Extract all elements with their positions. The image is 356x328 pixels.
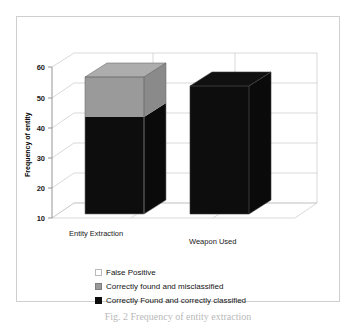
x-category-label-weapon-used: Weapon Used	[189, 237, 236, 246]
figure-caption: Fig. 2 Frequency of entity extraction	[0, 310, 356, 328]
y-tick-label: 40	[37, 124, 45, 133]
legend-swatch-white-icon	[95, 269, 102, 276]
figure-frame: 60 50 40 30 20 10 Frequency of entity	[16, 16, 340, 302]
y-tick-label: 50	[37, 94, 45, 103]
legend-item-false-positive[interactable]: False Positive	[95, 265, 325, 279]
legend-label: Correctly Found and correctly classified	[106, 296, 246, 305]
legend-item-correctly-classified[interactable]: Correctly Found and correctly classified	[95, 293, 325, 307]
y-tick-label: 10	[37, 214, 45, 223]
chart-area: 60 50 40 30 20 10 Frequency of entity	[17, 17, 341, 247]
chart-svg: 60 50 40 30 20 10 Frequency of entity	[17, 17, 341, 247]
y-tick-label: 30	[37, 154, 45, 163]
figure-page: 60 50 40 30 20 10 Frequency of entity	[0, 0, 356, 328]
legend-item-misclassified[interactable]: Correctly found and misclassified	[95, 279, 325, 293]
y-axis	[48, 67, 52, 218]
chart-legend: False Positive Correctly found and miscl…	[95, 265, 325, 307]
bar-entity-extraction[interactable]	[85, 63, 166, 214]
bar-weapon-used[interactable]	[190, 72, 271, 214]
legend-swatch-gray-icon	[95, 283, 102, 290]
legend-swatch-black-icon	[95, 297, 102, 304]
x-category-label-entity-extraction: Entity Extraction	[69, 229, 123, 238]
y-axis-title: Frequency of entity	[24, 112, 32, 177]
legend-label: False Positive	[106, 268, 156, 277]
y-tick-label: 60	[37, 63, 45, 72]
y-tick-label: 20	[37, 184, 45, 193]
legend-label: Correctly found and misclassified	[106, 282, 223, 291]
